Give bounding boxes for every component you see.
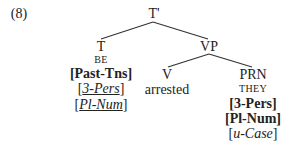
v-word: arrested — [145, 83, 189, 97]
prn-lexeme: THEY — [239, 84, 267, 94]
edge-tbar-t — [101, 22, 153, 39]
node-tbar: T' — [148, 7, 159, 21]
node-vp: VP — [200, 40, 218, 54]
prn-feature-3-pers: [3-Pers] — [229, 97, 276, 111]
node-prn: PRN — [239, 68, 266, 82]
prn-feature-pl-num: [Pl-Num] — [225, 112, 281, 126]
edge-vp-v — [168, 54, 209, 67]
t-feature-past-tns: [Past-Tns] — [70, 67, 132, 81]
t-feature-3-pers: [3-Pers] — [78, 82, 125, 96]
edge-tbar-vp — [153, 22, 208, 39]
node-t: T — [97, 40, 106, 54]
prn-feature-u-case: [u-Case] — [228, 127, 277, 141]
t-lexeme: BE — [94, 55, 107, 65]
edge-vp-prn — [209, 54, 252, 67]
example-number: (8) — [11, 7, 27, 21]
t-feature-pl-num: [Pl-Num] — [75, 98, 128, 112]
node-v: V — [162, 68, 172, 82]
